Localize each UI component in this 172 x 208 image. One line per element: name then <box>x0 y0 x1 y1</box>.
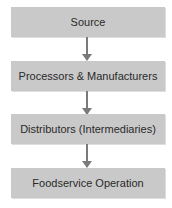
arrow-down-icon <box>86 91 88 114</box>
arrow-down-icon <box>86 37 88 60</box>
node-source: Source <box>11 7 165 37</box>
node-foodservice: Foodservice Operation <box>11 168 165 198</box>
node-processors: Processors & Manufacturers <box>11 61 165 91</box>
node-label: Source <box>71 16 106 28</box>
node-distributors: Distributors (Intermediaries) <box>11 114 165 144</box>
node-label: Processors & Manufacturers <box>19 70 158 82</box>
node-label: Distributors (Intermediaries) <box>20 123 156 135</box>
node-label: Foodservice Operation <box>32 177 143 189</box>
arrow-down-icon <box>86 144 88 167</box>
